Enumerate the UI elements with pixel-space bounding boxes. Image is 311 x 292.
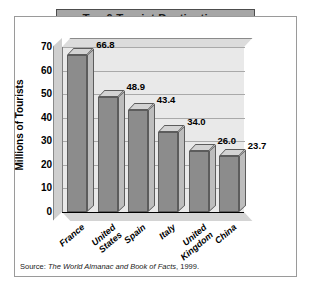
- plot-area: 66.848.943.434.026.023.7: [62, 47, 244, 212]
- bar: [219, 156, 239, 212]
- bar: [98, 97, 118, 212]
- y-tick-label: 20: [26, 160, 52, 170]
- source-prefix: Source:: [20, 262, 48, 271]
- bar-front-face: [219, 156, 239, 212]
- x-axis-line: [62, 212, 244, 213]
- y-tick-label: 10: [26, 183, 52, 193]
- bar-side-face: [87, 48, 94, 212]
- bar-value-label: 66.8: [96, 40, 115, 50]
- source-note: Source: The World Almanac and Book of Fa…: [20, 262, 199, 271]
- plot-floor: [62, 212, 252, 221]
- bar: [67, 55, 87, 212]
- bar-front-face: [98, 97, 118, 212]
- bar-side-face: [239, 150, 246, 212]
- bar: [128, 110, 148, 212]
- y-axis-title: Millions of Tourists: [13, 0, 27, 70]
- bar: [158, 132, 178, 212]
- source-year: , 1999.: [176, 262, 199, 271]
- y-tick-label: 50: [26, 89, 52, 99]
- plot-back-wall: [62, 38, 252, 47]
- bar-side-face: [209, 144, 216, 212]
- bar-front-face: [128, 110, 148, 212]
- bar-side-face: [118, 90, 125, 212]
- y-tick-label: 30: [26, 136, 52, 146]
- source-publication: The World Almanac and Book of Facts: [48, 262, 176, 271]
- y-tick-label: 40: [26, 113, 52, 123]
- bar-front-face: [67, 55, 87, 212]
- y-tick-label: 70: [26, 42, 52, 52]
- bar-side-face: [148, 103, 155, 212]
- bar: [189, 151, 209, 212]
- y-tick-label: 60: [26, 66, 52, 76]
- plot-left-wall: [53, 38, 62, 220]
- bar-value-label: 34.0: [187, 117, 206, 127]
- bar-value-label: 23.7: [248, 141, 267, 151]
- bar-value-label: 26.0: [218, 136, 237, 146]
- bar-front-face: [158, 132, 178, 212]
- bar-front-face: [189, 151, 209, 212]
- bar-value-label: 43.4: [157, 95, 176, 105]
- chart-figure: Top 6 Tourist Destinations Millions of T…: [0, 0, 311, 292]
- bar-side-face: [178, 125, 185, 212]
- bar-value-label: 48.9: [127, 82, 146, 92]
- y-axis-title-text: Millions of Tourists: [13, 70, 27, 180]
- y-tick-label: 0: [26, 207, 52, 217]
